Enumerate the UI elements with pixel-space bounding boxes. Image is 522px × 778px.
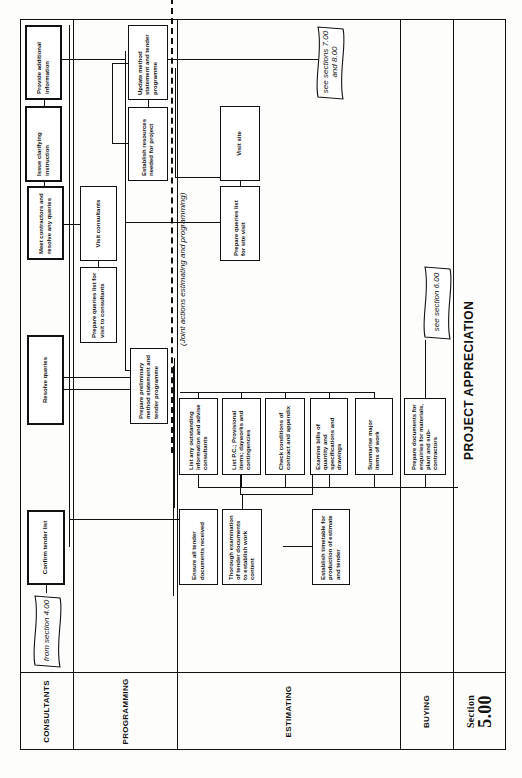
box-prepare-preliminary: Prepare preliminary method statement and… [130, 348, 168, 424]
box-prepare-documents-buying: Prepare documents for enquiries for mate… [404, 398, 446, 475]
connector-line [175, 68, 176, 178]
connector-line [112, 143, 128, 144]
connector-line [198, 487, 458, 488]
connector-line [425, 475, 426, 488]
box-thorough-examination: Thorough examination of tender documents… [222, 509, 262, 585]
connector-line [64, 224, 81, 225]
lane-divider [177, 19, 178, 750]
box-visit-consultants: Visit consultants [80, 186, 117, 261]
box-prepare-queries-consultants: Prepare queries list for visit to consul… [80, 267, 117, 343]
connector-line [180, 392, 375, 393]
see-section-6-connector: see section 6.00 [423, 264, 452, 340]
box-ensure-documents: Ensure all tender documents received [179, 509, 218, 585]
box-check-conditions: Check conditions of contract and appendi… [265, 398, 305, 475]
connector-line [69, 519, 181, 520]
box-visit-site: Visit site [220, 106, 260, 181]
lane-label-buying: BUYING [400, 673, 453, 750]
connector-line [173, 366, 174, 596]
connector-line [312, 475, 313, 495]
box-prepare-queries-site: Prepare queries list for site visit [220, 186, 260, 261]
connector-line [242, 495, 243, 509]
joint-actions-divider [171, 0, 173, 453]
connector-line [425, 340, 426, 398]
connector-line [374, 475, 375, 488]
document-page: CONSULTANTS PROGRAMMING ESTIMATING BUYIN… [0, 0, 522, 778]
lane-divider [73, 19, 74, 750]
lane-divider [400, 19, 401, 750]
page-frame [20, 19, 506, 750]
box-resolve-queries: Resolve queries [27, 335, 64, 425]
box-establish-resources: Establish resources needed for project [128, 107, 168, 181]
from-section-connector: from section 4.00 [33, 593, 62, 668]
box-confirm-tender-list: Confirm tender list [27, 510, 65, 585]
see-sections-7-8-connector: see sections 7.00 and 8.00 [316, 24, 345, 100]
section-label: Section 5.00 [453, 673, 506, 750]
box-provide-additional: Provide additional information [25, 25, 62, 100]
box-list-pc: List P.C.; Provisional items; dayworks a… [222, 398, 261, 475]
box-establish-timetable: Establish timetable for production of es… [312, 509, 350, 585]
connector-line [240, 494, 312, 495]
lane-label-programming: PROGRAMMING [73, 673, 177, 750]
page-title: PROJECT APPRECIATION [462, 301, 476, 460]
connector-line [64, 377, 134, 378]
connector-line [69, 25, 70, 547]
lane-label-consultants: CONSULTANTS [20, 673, 73, 750]
lane-label-estimating: ESTIMATING [177, 673, 400, 750]
connector-line [112, 64, 113, 144]
connector-line [125, 342, 126, 348]
connector-line [198, 475, 199, 488]
connector-line [168, 59, 318, 60]
connector-line [62, 59, 126, 60]
connector-line [241, 475, 242, 488]
box-summarise-major: Summarise major items of work [355, 398, 393, 475]
box-examine-bills: Examine bills of quantity and specificat… [310, 398, 348, 475]
connector-line [64, 389, 134, 390]
section-number: 5.00 [476, 695, 494, 728]
connector-line [329, 475, 330, 488]
joint-actions-note: (Joint actions estimating and programmin… [178, 193, 187, 346]
box-update-method: Update method statement and tender progr… [128, 25, 168, 100]
connector-line [285, 475, 286, 488]
connector-line [125, 51, 126, 371]
connector-line [112, 63, 128, 64]
lane-divider [453, 19, 454, 750]
box-meet-contractors: Meet contractors and resolve any queries [27, 186, 64, 260]
connector-line [148, 100, 149, 107]
box-issue-clarifying: Issue clarifying instruction [25, 106, 62, 182]
box-list-outstanding: List any outstanding information and adv… [179, 398, 218, 475]
section-word: Section [466, 695, 476, 728]
